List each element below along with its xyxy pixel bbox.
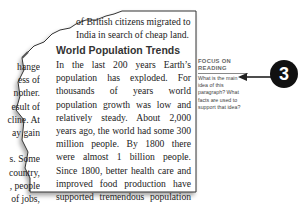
arrow-left-icon	[238, 72, 272, 82]
document-page: hange ess of nother. esult of cline. At …	[0, 0, 300, 204]
callout-number-badge: 3	[270, 60, 298, 88]
paragraph-1: In the last 200 years Earth’s population…	[56, 58, 191, 204]
fragment-line: nother.	[0, 86, 40, 99]
focus-on-reading-sidebar: Focus on Reading What is the main idea o…	[198, 58, 248, 111]
fragment-line: , people	[0, 179, 40, 192]
fragment-line: of jobs,	[0, 192, 40, 204]
fragment-line: ess of	[0, 73, 40, 86]
fragment-line: country,	[0, 166, 40, 179]
intro-line-1: of British citizens migrated to	[76, 16, 200, 29]
fragment-line: hange	[0, 60, 40, 73]
sidebar-title-line-2: Reading	[198, 65, 248, 72]
fragment-line: esult of	[0, 100, 40, 113]
fragment-line: cline. At	[0, 113, 40, 126]
section-heading: World Population Trends	[56, 44, 180, 56]
fragment-line: s. Some	[0, 152, 40, 165]
previous-paragraph-ending: of British citizens migrated to India in…	[76, 16, 200, 41]
intro-line-2: India in search of cheap land.	[76, 29, 200, 42]
sidebar-title-line-1: Focus on	[198, 58, 248, 65]
fragment-line: ay gain	[0, 126, 40, 139]
section-body: In the last 200 years Earth’s population…	[56, 58, 191, 204]
left-column-fragments: hange ess of nother. esult of cline. At …	[0, 60, 40, 204]
fragment-line	[0, 139, 40, 152]
